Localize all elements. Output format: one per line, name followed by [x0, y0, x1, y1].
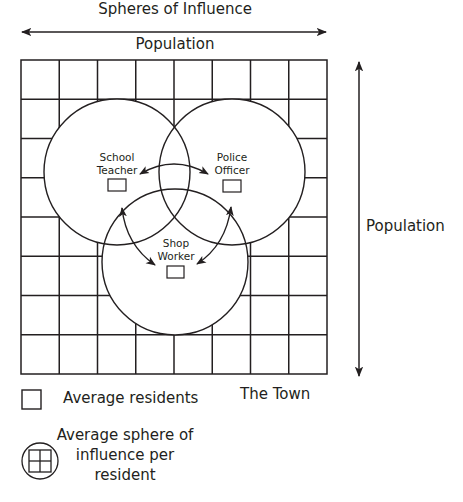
town-label: The Town: [239, 385, 310, 403]
vertical-axis-label: Population: [366, 217, 445, 235]
police-label-line1: Police: [217, 151, 247, 163]
legend-sphere-label-line3: resident: [94, 466, 155, 484]
police-label-line2: Officer: [215, 164, 251, 176]
diagram-title: Spheres of Influence: [98, 0, 252, 18]
legend-sphere-label-line2: influence per: [76, 446, 175, 464]
legend-residents-label: Average residents: [63, 389, 199, 407]
legend-resident-square-icon: [22, 390, 41, 409]
horizontal-axis-label: Population: [136, 35, 215, 53]
teacher-label-line2: Teacher: [96, 164, 138, 176]
legend-sphere-label-line1: Average sphere of: [57, 426, 194, 444]
shop-label-line2: Worker: [158, 250, 196, 262]
teacher-label-line1: School: [100, 151, 135, 163]
police-resident-box: [223, 180, 241, 192]
shop-label-line1: Shop: [163, 237, 190, 249]
legend-sphere-icon: [22, 443, 58, 479]
shop-resident-box: [167, 266, 184, 278]
diagram-canvas: Spheres of Influence Population School T…: [0, 0, 463, 502]
teacher-resident-box: [108, 179, 126, 191]
